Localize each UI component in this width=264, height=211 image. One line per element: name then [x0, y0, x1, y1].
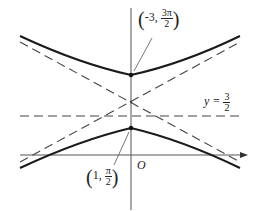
horizontal-line-lhs: y =: [204, 94, 220, 108]
horizontal-line-label: y = 32: [204, 92, 230, 113]
lower-vertex-label: (1, π2): [86, 166, 118, 187]
origin-label: O: [137, 159, 146, 171]
horizontal-line-den: 2: [223, 103, 230, 113]
hyperbola-diagram: (-3, 3π2) y = 32 O (1, π2): [0, 0, 264, 211]
center-point: [130, 101, 132, 103]
upper-vertex-x: -3: [145, 10, 155, 24]
lower-vertex-y-den: 2: [105, 177, 112, 187]
upper-vertex-y-fraction: 3π2: [161, 8, 173, 29]
upper-vertex-label: (-3, 3π2): [138, 8, 179, 29]
lower-vertex-point: [129, 126, 133, 130]
lower-leader-line: [114, 132, 129, 165]
upper-leader-line: [134, 38, 152, 71]
upper-vertex-point: [129, 73, 133, 77]
lower-vertex-x: 1: [93, 168, 99, 182]
lower-branch: [20, 128, 240, 168]
upper-vertex-y-den: 2: [161, 19, 173, 29]
upper-branch: [20, 36, 240, 75]
lower-vertex-y-fraction: π2: [105, 166, 112, 187]
x-axis-arrow-icon: [240, 152, 248, 158]
horizontal-line-fraction: 32: [223, 92, 230, 113]
